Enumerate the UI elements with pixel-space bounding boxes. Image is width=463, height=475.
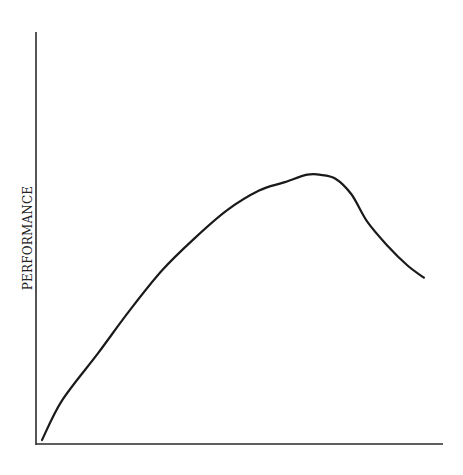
performance-curve [42,174,424,440]
y-axis-label: PERFORMANCE [21,186,35,291]
chart: PERFORMANCE [0,0,463,475]
